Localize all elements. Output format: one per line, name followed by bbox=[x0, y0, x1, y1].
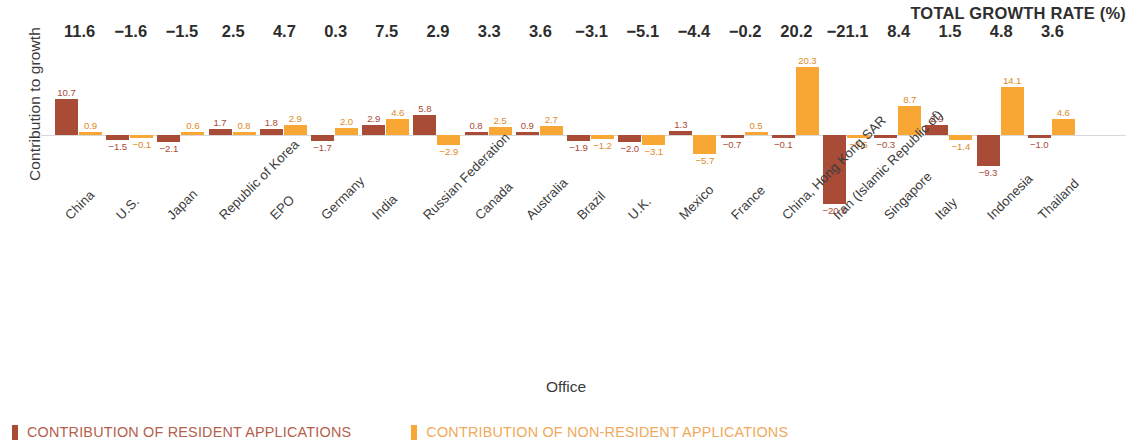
total-growth-rate-value: 11.6 bbox=[54, 22, 105, 41]
non-resident-bar bbox=[1001, 87, 1024, 135]
total-growth-rate-value: 2.5 bbox=[208, 22, 259, 41]
non-resident-bar bbox=[949, 135, 972, 140]
total-growth-rate-value: 3.6 bbox=[1027, 22, 1078, 41]
resident-bar bbox=[311, 135, 334, 141]
non-resident-bar-value-label: 2.9 bbox=[277, 113, 314, 124]
non-resident-bar bbox=[181, 132, 204, 135]
total-growth-rate-value: 8.4 bbox=[873, 22, 924, 41]
resident-bar bbox=[260, 129, 283, 135]
resident-bar-value-label: 1.3 bbox=[662, 119, 699, 130]
legend-item-non-resident: CONTRIBUTION OF NON-RESIDENT APPLICATION… bbox=[411, 424, 788, 440]
resident-bar-value-label: −1.7 bbox=[304, 142, 341, 153]
non-resident-bar bbox=[745, 132, 768, 135]
legend: CONTRIBUTION OF RESIDENT APPLICATIONS CO… bbox=[12, 424, 788, 440]
legend-swatch-non-resident-icon bbox=[411, 425, 417, 440]
resident-bar bbox=[669, 131, 692, 135]
non-resident-bar bbox=[233, 132, 256, 135]
resident-bar bbox=[1028, 135, 1051, 138]
non-resident-bar bbox=[1052, 119, 1075, 135]
total-growth-rate-value: −5.1 bbox=[617, 22, 668, 41]
resident-bar-value-label: 10.7 bbox=[48, 87, 85, 98]
total-growth-rate-value: 3.6 bbox=[515, 22, 566, 41]
legend-swatch-resident-icon bbox=[12, 425, 18, 440]
non-resident-bar bbox=[386, 119, 409, 135]
total-growth-rate-value: 4.8 bbox=[976, 22, 1027, 41]
non-resident-bar bbox=[284, 125, 307, 135]
non-resident-bar-value-label: −3.1 bbox=[635, 146, 672, 157]
resident-bar bbox=[157, 135, 180, 142]
total-growth-rate-value: 3.3 bbox=[464, 22, 515, 41]
non-resident-bar bbox=[642, 135, 665, 145]
resident-bar-value-label: −9.3 bbox=[970, 167, 1007, 178]
resident-bar bbox=[721, 135, 744, 138]
legend-item-resident: CONTRIBUTION OF RESIDENT APPLICATIONS bbox=[12, 424, 351, 440]
non-resident-bar bbox=[591, 135, 614, 139]
resident-bar bbox=[618, 135, 641, 142]
total-growth-rate-value: −3.1 bbox=[566, 22, 617, 41]
non-resident-bar bbox=[796, 67, 819, 135]
non-resident-bar bbox=[540, 126, 563, 135]
total-growth-rate-value: 4.7 bbox=[259, 22, 310, 41]
resident-bar bbox=[977, 135, 1000, 166]
non-resident-bar-value-label: 4.6 bbox=[1045, 107, 1082, 118]
total-growth-rate-value: 1.5 bbox=[924, 22, 975, 41]
resident-bar bbox=[465, 132, 488, 135]
non-resident-bar-value-label: 20.3 bbox=[789, 55, 826, 66]
total-growth-rate-value: −1.6 bbox=[105, 22, 156, 41]
non-resident-bar-value-label: −5.7 bbox=[686, 155, 723, 166]
contribution-to-growth-chart: Contribution to growth TOTAL GROWTH RATE… bbox=[0, 0, 1132, 448]
non-resident-bar-value-label: 2.7 bbox=[533, 114, 570, 125]
resident-bar bbox=[413, 115, 436, 135]
non-resident-bar-value-label: −2.9 bbox=[430, 146, 467, 157]
resident-bar-value-label: −2.1 bbox=[150, 143, 187, 154]
total-growth-rate-value: 2.9 bbox=[412, 22, 463, 41]
x-axis-title: Office bbox=[0, 378, 1132, 396]
total-growth-rate-value: −21.1 bbox=[822, 22, 873, 41]
non-resident-bar-value-label: 14.1 bbox=[994, 75, 1031, 86]
total-growth-rate-value: −1.5 bbox=[156, 22, 207, 41]
total-growth-rate-value: 0.3 bbox=[310, 22, 361, 41]
resident-bar bbox=[516, 132, 539, 135]
legend-label-non-resident: CONTRIBUTION OF NON-RESIDENT APPLICATION… bbox=[426, 424, 788, 440]
non-resident-bar bbox=[130, 135, 153, 138]
resident-bar bbox=[874, 135, 897, 138]
resident-bar bbox=[772, 135, 795, 138]
resident-bar-value-label: −0.7 bbox=[714, 139, 751, 150]
total-growth-rate-value: 20.2 bbox=[771, 22, 822, 41]
resident-bar-value-label: 5.8 bbox=[406, 103, 443, 114]
resident-bar-value-label: −0.1 bbox=[765, 139, 802, 150]
total-growth-rate-value: −0.2 bbox=[720, 22, 771, 41]
legend-label-resident: CONTRIBUTION OF RESIDENT APPLICATIONS bbox=[27, 424, 351, 440]
resident-bar bbox=[362, 125, 385, 135]
non-resident-bar-value-label: 8.7 bbox=[891, 94, 928, 105]
non-resident-bar-value-label: −1.4 bbox=[942, 141, 979, 152]
non-resident-bar-value-label: 0.9 bbox=[72, 120, 109, 131]
x-axis-tick-labels: ChinaU.S.JapanRepublic of KoreaEPOGerman… bbox=[41, 212, 1132, 372]
total-growth-rate-value: 7.5 bbox=[361, 22, 412, 41]
non-resident-bar bbox=[335, 128, 358, 135]
non-resident-bar-value-label: 0.5 bbox=[738, 120, 775, 131]
resident-bar-value-label: −1.0 bbox=[1021, 139, 1058, 150]
non-resident-bar bbox=[437, 135, 460, 145]
non-resident-bar bbox=[79, 132, 102, 135]
total-growth-rate-value: −4.4 bbox=[668, 22, 719, 41]
